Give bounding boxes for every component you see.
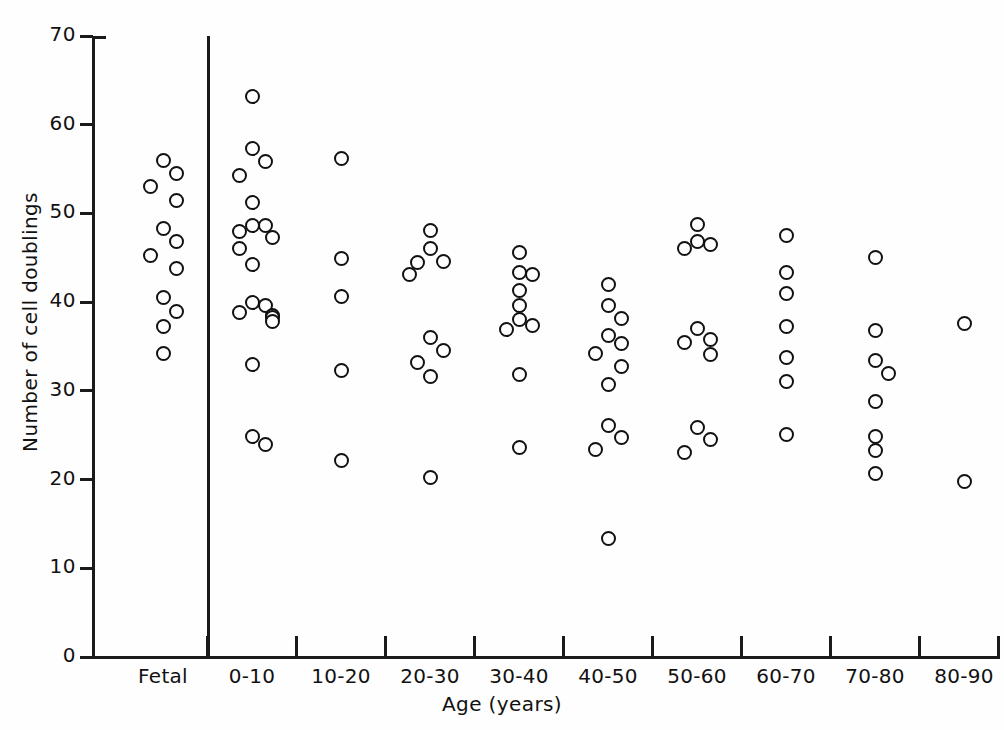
data-point-marker bbox=[703, 347, 718, 362]
data-point-marker bbox=[779, 374, 794, 389]
data-point-marker bbox=[245, 141, 260, 156]
data-point-marker bbox=[614, 336, 629, 351]
data-point-marker bbox=[703, 332, 718, 347]
data-point-marker bbox=[601, 377, 616, 392]
data-point-marker bbox=[423, 369, 438, 384]
data-point-marker bbox=[436, 343, 451, 358]
data-point-marker bbox=[690, 217, 705, 232]
data-point-marker bbox=[957, 316, 972, 331]
data-point-marker bbox=[423, 241, 438, 256]
data-point-marker bbox=[512, 298, 527, 313]
data-point-marker bbox=[601, 298, 616, 313]
data-point-marker bbox=[525, 318, 540, 333]
data-point-marker bbox=[601, 531, 616, 546]
data-point-marker bbox=[410, 355, 425, 370]
data-point-marker bbox=[143, 179, 158, 194]
data-point-marker bbox=[512, 367, 527, 382]
data-point-marker bbox=[143, 248, 158, 263]
data-point-marker bbox=[258, 154, 273, 169]
data-point-marker bbox=[156, 221, 171, 236]
data-point-marker bbox=[245, 357, 260, 372]
data-point-marker bbox=[779, 427, 794, 442]
data-point-marker bbox=[690, 420, 705, 435]
data-point-marker bbox=[156, 319, 171, 334]
data-point-marker bbox=[334, 363, 349, 378]
data-point-marker bbox=[232, 168, 247, 183]
data-point-marker bbox=[423, 223, 438, 238]
data-point-marker bbox=[868, 429, 883, 444]
data-point-marker bbox=[601, 277, 616, 292]
x-axis-title: Age (years) bbox=[0, 692, 1004, 716]
data-point-marker bbox=[677, 335, 692, 350]
data-point-marker bbox=[512, 440, 527, 455]
data-point-marker bbox=[258, 437, 273, 452]
data-point-marker bbox=[868, 353, 883, 368]
data-point-marker bbox=[423, 470, 438, 485]
data-point-marker bbox=[690, 321, 705, 336]
data-point-marker bbox=[779, 319, 794, 334]
chart-canvas: Number of cell doublings 706050403020100… bbox=[0, 0, 1004, 730]
data-point-marker bbox=[232, 241, 247, 256]
data-point-marker bbox=[232, 224, 247, 239]
data-point-marker bbox=[779, 350, 794, 365]
data-point-marker bbox=[169, 193, 184, 208]
data-point-marker bbox=[868, 250, 883, 265]
data-point-marker bbox=[614, 311, 629, 326]
data-point-marker bbox=[779, 228, 794, 243]
data-point-marker bbox=[436, 254, 451, 269]
data-point-marker bbox=[169, 166, 184, 181]
data-point-marker bbox=[614, 359, 629, 374]
data-point-marker bbox=[614, 430, 629, 445]
data-points-layer bbox=[0, 0, 1004, 730]
data-point-marker bbox=[156, 153, 171, 168]
data-point-marker bbox=[868, 466, 883, 481]
data-point-marker bbox=[245, 195, 260, 210]
data-point-marker bbox=[334, 453, 349, 468]
data-point-marker bbox=[169, 234, 184, 249]
data-point-marker bbox=[156, 290, 171, 305]
data-point-marker bbox=[512, 245, 527, 260]
data-point-marker bbox=[334, 151, 349, 166]
data-point-marker bbox=[868, 443, 883, 458]
data-point-marker bbox=[423, 330, 438, 345]
data-point-marker bbox=[881, 366, 896, 381]
data-point-marker bbox=[169, 261, 184, 276]
data-point-marker bbox=[868, 394, 883, 409]
data-point-marker bbox=[779, 286, 794, 301]
data-point-marker bbox=[957, 474, 972, 489]
data-point-marker bbox=[156, 346, 171, 361]
data-point-marker bbox=[677, 241, 692, 256]
data-point-marker bbox=[525, 267, 540, 282]
data-point-marker bbox=[868, 323, 883, 338]
data-point-marker bbox=[512, 283, 527, 298]
data-point-marker bbox=[703, 237, 718, 252]
data-point-marker bbox=[232, 305, 247, 320]
data-point-marker bbox=[245, 257, 260, 272]
data-point-marker bbox=[588, 442, 603, 457]
data-point-marker bbox=[334, 251, 349, 266]
data-point-marker bbox=[265, 230, 280, 245]
data-point-marker bbox=[588, 346, 603, 361]
data-point-marker bbox=[601, 418, 616, 433]
data-point-marker bbox=[265, 314, 280, 329]
data-point-marker bbox=[677, 445, 692, 460]
data-point-marker bbox=[334, 289, 349, 304]
data-point-marker bbox=[169, 304, 184, 319]
data-point-marker bbox=[779, 265, 794, 280]
data-point-marker bbox=[499, 322, 514, 337]
data-point-marker bbox=[402, 267, 417, 282]
data-point-marker bbox=[245, 429, 260, 444]
data-point-marker bbox=[245, 89, 260, 104]
data-point-marker bbox=[703, 432, 718, 447]
